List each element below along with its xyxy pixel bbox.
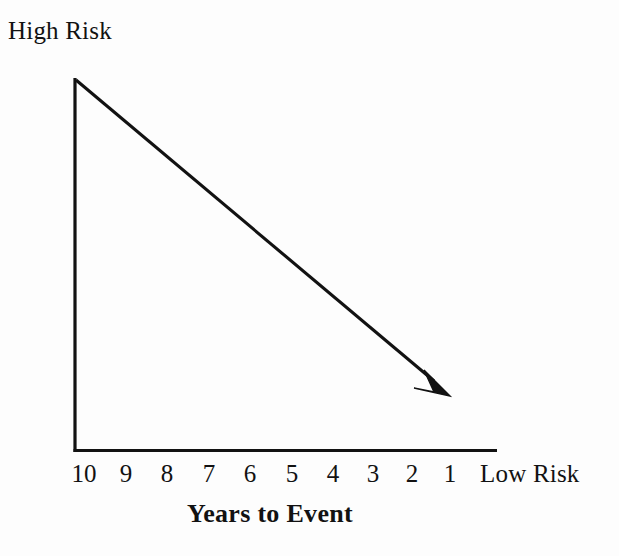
x-tick-label-4: 4 bbox=[327, 461, 340, 486]
x-tick-label-2: 2 bbox=[406, 461, 419, 486]
risk-timeline-figure: High Risk 10 9 8 7 6 5 4 3 2 1 Low Risk … bbox=[0, 0, 619, 556]
trend-arrowhead-icon bbox=[414, 370, 450, 396]
x-axis-low-risk-label: Low Risk bbox=[480, 461, 580, 486]
x-tick-label-10: 10 bbox=[72, 461, 97, 486]
x-tick-label-7: 7 bbox=[203, 461, 216, 486]
x-tick-label-3: 3 bbox=[367, 461, 380, 486]
x-tick-label-8: 8 bbox=[161, 461, 174, 486]
trend-line bbox=[76, 80, 434, 381]
y-axis-high-risk-label: High Risk bbox=[8, 18, 112, 43]
x-tick-label-1: 1 bbox=[444, 461, 457, 486]
x-tick-label-6: 6 bbox=[244, 461, 257, 486]
x-axis-title: Years to Event bbox=[0, 501, 540, 527]
x-tick-label-5: 5 bbox=[286, 461, 299, 486]
x-tick-label-9: 9 bbox=[120, 461, 133, 486]
